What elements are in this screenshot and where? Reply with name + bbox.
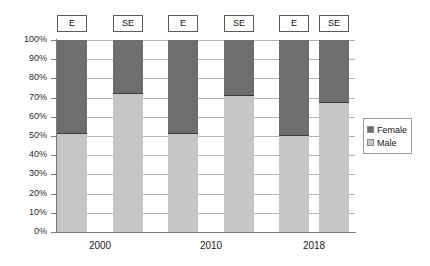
plot-area [57, 40, 355, 232]
gridline [57, 194, 355, 195]
bar[interactable] [113, 40, 143, 232]
bar-segment-female[interactable] [113, 40, 143, 94]
bar-segment-female[interactable] [279, 40, 309, 136]
gridline [57, 136, 355, 137]
chart-legend: Female Male [363, 118, 412, 154]
x-axis-line [56, 232, 356, 233]
y-tick-label: 30% [0, 169, 47, 178]
stacked-bar-chart: 100%90%80%70%60%50%40%30%20%10%0% ESEESE… [0, 0, 430, 266]
y-tick-label: 10% [0, 208, 47, 217]
bar-segment-male[interactable] [57, 134, 87, 232]
bar-segment-male[interactable] [319, 103, 349, 232]
gridline [57, 98, 355, 99]
y-tick-label: 60% [0, 112, 47, 121]
bar-segment-female[interactable] [168, 40, 198, 134]
gridline [57, 155, 355, 156]
y-tick-label: 70% [0, 93, 47, 102]
gridline [57, 78, 355, 79]
x-axis-group-label: 2010 [161, 240, 261, 251]
y-tick-label: 20% [0, 189, 47, 198]
bar-segment-male[interactable] [113, 94, 143, 232]
bar-category-label-e: E [279, 15, 309, 32]
gridline [57, 213, 355, 214]
y-tick-label: 0% [0, 227, 47, 236]
bar-category-label-se: SE [113, 15, 143, 32]
gridline [57, 174, 355, 175]
x-axis-group-label: 2000 [50, 240, 150, 251]
bar-segment-male[interactable] [279, 136, 309, 232]
bar-category-label-e: E [57, 15, 87, 32]
bar-category-label-se: SE [319, 15, 349, 32]
bar-category-label-e: E [168, 15, 198, 32]
legend-label-female: Female [377, 125, 407, 135]
legend-item-male: Male [367, 136, 407, 149]
bar[interactable] [319, 40, 349, 232]
gridline [57, 40, 355, 41]
legend-swatch-male-icon [367, 139, 374, 146]
bar-category-label-se: SE [224, 15, 254, 32]
bar-segment-male[interactable] [224, 96, 254, 232]
gridline [57, 117, 355, 118]
y-tick-label: 50% [0, 131, 47, 140]
y-tick-label: 90% [0, 54, 47, 63]
bar[interactable] [224, 40, 254, 232]
bar[interactable] [168, 40, 198, 232]
bar-segment-female[interactable] [224, 40, 254, 96]
legend-label-male: Male [377, 138, 397, 148]
bar-segment-female[interactable] [57, 40, 87, 134]
y-tick-label: 80% [0, 73, 47, 82]
gridline [57, 59, 355, 60]
y-tick-label: 40% [0, 150, 47, 159]
y-tick-label: 100% [0, 35, 47, 44]
legend-item-female: Female [367, 123, 407, 136]
bar[interactable] [57, 40, 87, 232]
legend-swatch-female-icon [367, 126, 374, 133]
bar[interactable] [279, 40, 309, 232]
x-axis-group-label: 2018 [264, 240, 364, 251]
bar-segment-female[interactable] [319, 40, 349, 103]
y-tick-mark [51, 232, 57, 233]
bar-segment-male[interactable] [168, 134, 198, 232]
